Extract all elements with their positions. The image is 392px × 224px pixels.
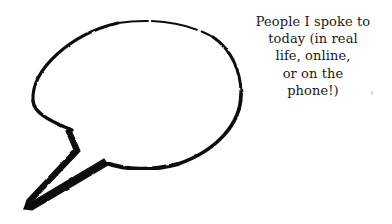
illustration-canvas: People I spoke to today (in real life, o…: [0, 0, 392, 224]
caption-line-5: phone!): [246, 82, 380, 99]
bubble-outline-group: [24, 20, 241, 210]
ink-speck: [371, 91, 373, 95]
bubble-fill: [26, 20, 241, 208]
caption-line-3: life, online,: [246, 47, 380, 64]
caption-line-4: or on the: [246, 65, 380, 82]
caption-line-1: People I spoke to: [246, 13, 380, 30]
caption-text: People I spoke to today (in real life, o…: [246, 13, 380, 99]
caption-line-2: today (in real: [246, 30, 380, 47]
